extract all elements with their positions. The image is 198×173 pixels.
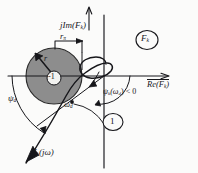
imaginary-axis-label-tail: ) — [83, 20, 86, 30]
real-axis-label-text: Re(F — [147, 79, 164, 89]
omega-d-label: ωd — [64, 100, 73, 109]
real-axis-label: Re(Fk) — [147, 79, 169, 89]
nyquist-figure: jIm(Fk) Re(Fk) Fk rπ -1 r ψd ωd ψk(ωd) <… — [0, 0, 198, 173]
figure-tag-sub: k — [147, 37, 149, 43]
callout-connector-arc — [74, 104, 104, 124]
real-axis-label-tail: ) — [166, 79, 169, 89]
r-pi-label: rπ — [60, 32, 66, 41]
locus-label: Fk(jω) — [31, 148, 54, 158]
loop-inner-arrowhead — [89, 72, 99, 87]
omega-d-sub: d — [70, 103, 73, 109]
psi-d-sub: d — [14, 97, 17, 103]
callout-1-label: 1 — [110, 117, 115, 126]
critical-point-label: -1 — [48, 73, 55, 81]
imaginary-axis-arrowhead — [86, 7, 92, 30]
imaginary-axis-label: jIm(Fk) — [60, 21, 86, 31]
psi-k-inequality-label: ψk(ωd) < 0 — [103, 88, 136, 97]
psi-k-tail: ) < 0 — [121, 87, 136, 96]
psi-d-label: ψd — [8, 94, 16, 104]
imaginary-axis-label-text: jIm(F — [60, 20, 81, 30]
figure-tag-label: Fk — [141, 34, 149, 44]
r-pi-sub: π — [63, 35, 66, 41]
disc-radius-label: r — [44, 55, 47, 63]
locus-arg: (jω) — [39, 147, 54, 157]
